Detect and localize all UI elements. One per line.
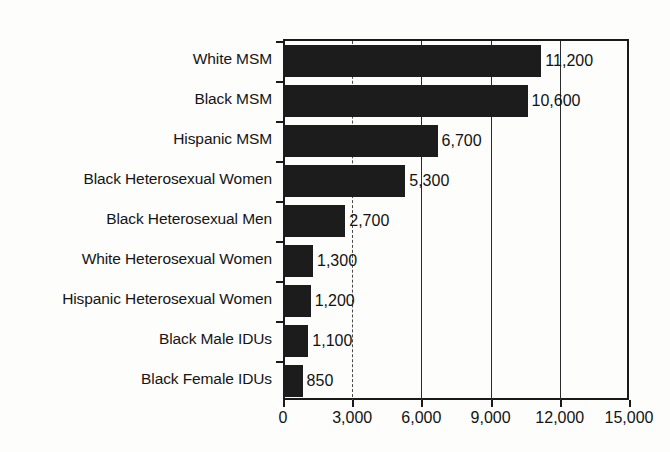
- category-label: Black Female IDUs: [141, 359, 272, 399]
- bar-value-label: 2,700: [345, 205, 389, 237]
- category-label: Black Heterosexual Men: [106, 199, 272, 239]
- bar-row: 10,600: [283, 81, 629, 121]
- bar: [283, 245, 313, 277]
- bar: [283, 325, 308, 357]
- bar-value-label: 1,300: [313, 245, 357, 277]
- category-label: Black MSM: [195, 79, 272, 119]
- y-axis-tick: [276, 161, 283, 163]
- x-axis-tick-label: 0: [279, 409, 288, 427]
- bar: [283, 205, 345, 237]
- bar-value-label: 850: [303, 365, 334, 397]
- category-label: Hispanic MSM: [173, 119, 272, 159]
- x-axis-tick-0: [283, 400, 285, 407]
- bar: [283, 85, 528, 117]
- bar-row: 11,200: [283, 41, 629, 81]
- category-label: Hispanic Heterosexual Women: [62, 279, 272, 319]
- x-axis-tick-3000: [352, 400, 354, 407]
- y-axis-tick: [276, 81, 283, 83]
- bar-row: 5,300: [283, 161, 629, 201]
- y-axis-tick: [276, 241, 283, 243]
- bar-value-label: 11,200: [541, 45, 593, 77]
- bar-row: 1,100: [283, 321, 629, 361]
- bar: [283, 45, 541, 77]
- bar-value-label: 10,600: [528, 85, 581, 117]
- bar-row: 6,700: [283, 121, 629, 161]
- bar-row: 1,200: [283, 281, 629, 321]
- y-axis-tick: [276, 281, 283, 283]
- bar-row: 2,700: [283, 201, 629, 241]
- bar-value-label: 1,100: [308, 325, 352, 357]
- x-axis-tick-label: 9,000: [471, 409, 511, 427]
- y-axis-tick: [276, 41, 283, 43]
- y-axis-tick: [276, 201, 283, 203]
- bar-chart: White MSMBlack MSMHispanic MSMBlack Hete…: [0, 0, 670, 452]
- x-axis-tick-6000: [421, 400, 423, 407]
- bar-row: 1,300: [283, 241, 629, 281]
- x-axis-tick-label: 15,000: [605, 409, 654, 427]
- bar: [283, 125, 438, 157]
- x-axis-tick-label: 3,000: [332, 409, 372, 427]
- category-label: Black Heterosexual Women: [83, 159, 272, 199]
- x-axis-tick-label: 12,000: [535, 409, 584, 427]
- category-label: White MSM: [193, 39, 272, 79]
- bar-row: 850: [283, 361, 629, 401]
- y-axis-tick: [276, 361, 283, 363]
- x-axis-tick-9000: [491, 400, 493, 407]
- bar-value-label: 1,200: [311, 285, 355, 317]
- bar: [283, 285, 311, 317]
- y-axis-tick: [276, 321, 283, 323]
- bar: [283, 365, 303, 397]
- category-axis-labels: White MSMBlack MSMHispanic MSMBlack Hete…: [0, 39, 278, 400]
- category-label: White Heterosexual Women: [82, 239, 272, 279]
- category-label: Black Male IDUs: [159, 319, 272, 359]
- bar-value-label: 6,700: [438, 125, 482, 157]
- bar-value-label: 5,300: [405, 165, 449, 197]
- plot-area: 11,20010,6006,7005,3002,7001,3001,2001,1…: [283, 39, 629, 400]
- x-axis-tick-12000: [560, 400, 562, 407]
- y-axis-tick: [276, 121, 283, 123]
- x-axis-tick-15000: [629, 400, 631, 407]
- bar: [283, 165, 405, 197]
- x-axis-tick-label: 6,000: [401, 409, 441, 427]
